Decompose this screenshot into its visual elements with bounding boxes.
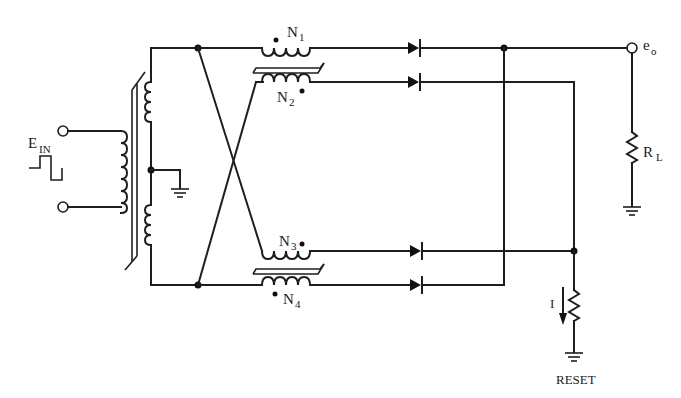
svg-text:3: 3 [291, 240, 297, 252]
center-tap-ground [148, 167, 190, 198]
input-terminal-top [58, 126, 68, 136]
polarity-dot-n4 [273, 292, 278, 297]
svg-text:R: R [643, 144, 653, 160]
diode-d1 [408, 40, 420, 56]
saturable-core-2: N 3 N 4 [198, 233, 410, 310]
output-load: e o R L [623, 37, 663, 215]
reset-resistor [569, 290, 579, 321]
transformer-core [125, 72, 145, 270]
ground-icon [565, 353, 583, 361]
output-terminal [627, 43, 637, 53]
circuit-diagram: E IN [0, 0, 681, 398]
diode-d2 [408, 74, 420, 90]
input-label: E IN [28, 135, 51, 155]
input-terminals [58, 126, 121, 212]
svg-text:o: o [651, 45, 657, 57]
winding-n4 [262, 277, 310, 285]
svg-text:E: E [28, 135, 37, 151]
diode-d3 [410, 243, 422, 259]
winding-n1 [262, 48, 310, 56]
secondary-winding [145, 48, 198, 285]
svg-text:2: 2 [289, 96, 295, 108]
reset-bus: RESET I [420, 82, 596, 387]
current-label: I [550, 296, 554, 311]
ground-icon [171, 189, 189, 197]
input-terminal-bottom [58, 202, 68, 212]
svg-text:4: 4 [295, 298, 301, 310]
svg-text:N: N [279, 233, 290, 249]
winding-n3 [262, 251, 310, 259]
svg-text:1: 1 [299, 31, 305, 43]
polarity-dot-n3 [300, 242, 305, 247]
svg-text:L: L [656, 151, 663, 163]
diode-d4 [410, 277, 422, 293]
output-bus [420, 45, 627, 286]
saturable-core-1: N 1 N 2 [198, 24, 410, 108]
svg-text:N: N [283, 291, 294, 307]
svg-text:N: N [287, 24, 298, 40]
ground-icon [623, 207, 641, 215]
primary-winding [121, 131, 127, 213]
svg-text:IN: IN [39, 143, 51, 155]
current-arrow-icon [559, 288, 567, 325]
load-resistor [627, 132, 637, 163]
cross-connections [198, 48, 263, 285]
polarity-dot-n1 [274, 38, 279, 43]
reset-label: RESET [556, 372, 596, 387]
winding-n2 [262, 74, 310, 82]
svg-text:N: N [277, 89, 288, 105]
polarity-dot-n2 [300, 89, 305, 94]
square-wave-icon [29, 156, 62, 180]
svg-text:e: e [643, 37, 650, 53]
